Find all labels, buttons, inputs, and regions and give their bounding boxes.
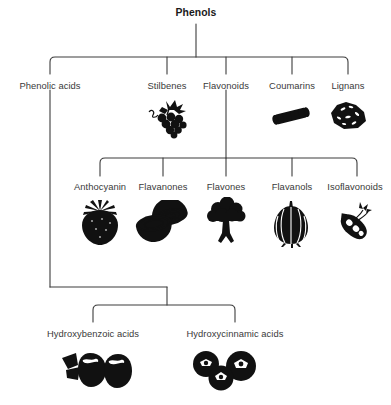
node-label-hydroxycinnamic-acids[interactable]: Hydroxycinnamic acids [187,328,284,339]
node-label-flavanones[interactable]: Flavanones [139,181,188,192]
node-label-anthocyanin[interactable]: Anthocyanin [74,181,126,192]
node-label-flavonoids[interactable]: Flavonoids [203,80,249,91]
level3-bracket [93,305,235,322]
node-label-lignans[interactable]: Lignans [331,80,364,91]
level1-bracket [50,57,348,74]
soybean-pod-icon [330,200,376,246]
node-label-flavanols[interactable]: Flavanols [272,181,313,192]
cranberries-icon [60,348,134,392]
citrus-halves-icon [132,200,194,246]
node-label-phenolic-acids[interactable]: Phenolic acids [19,80,80,91]
page-title: Phenols [176,7,217,18]
strawberry-icon [78,199,122,247]
broccoli-icon [205,197,247,247]
node-label-isoflavonoids[interactable]: Isoflavonoids [327,181,382,192]
onion-icon [271,200,311,248]
node-label-flavones[interactable]: Flavones [207,181,245,192]
cinnamon-stick-icon [269,104,313,128]
node-label-hydroxybenzoic-acids[interactable]: Hydroxybenzoic acids [47,328,139,339]
blueberries-icon [186,350,260,392]
flax-seeds-icon [326,100,370,132]
level2-bracket [100,158,357,176]
node-label-coumarins[interactable]: Coumarins [269,80,315,91]
phenols-classification-diagram: Phenols Phenolic acids Stilbenes Flavono… [0,0,391,405]
node-label-stilbenes[interactable]: Stilbenes [147,80,186,91]
grapes-icon [144,98,190,140]
